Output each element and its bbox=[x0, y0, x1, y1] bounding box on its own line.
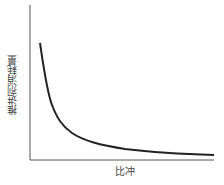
y-axis-label-text: 推进剂消耗量 bbox=[5, 55, 20, 115]
y-axis-label: 推进剂消耗量 bbox=[3, 40, 21, 130]
chart-canvas bbox=[0, 0, 224, 185]
x-axis-label: 比冲 bbox=[100, 163, 150, 178]
consumption-curve bbox=[40, 43, 214, 155]
